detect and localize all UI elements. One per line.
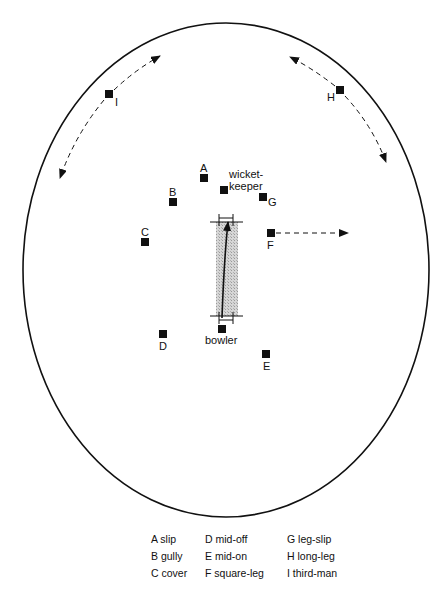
fielder-c-marker	[141, 238, 149, 246]
pitch	[210, 214, 243, 324]
fielder-d-label: D	[159, 340, 167, 352]
fielder-i-marker	[105, 90, 113, 98]
fielder-c-label: C	[141, 226, 149, 238]
legend-item: H long-leg	[287, 550, 367, 563]
wicketkeeper-label-line1: wicket-	[228, 168, 264, 180]
fielder-i-label: I	[115, 96, 118, 108]
fielder-b-marker	[169, 198, 177, 206]
wicketkeeper-label-line2: keeper	[229, 180, 263, 192]
legend-item: D mid-off	[205, 533, 287, 546]
fielder-b-label: B	[169, 186, 176, 198]
legend-item: E mid-on	[205, 550, 287, 563]
legend-item: G leg-slip	[287, 533, 367, 546]
fielder-h-arrow-down	[345, 96, 386, 162]
legend-item: B gully	[151, 550, 205, 563]
wicketkeeper-marker	[220, 186, 228, 194]
legend-item: A slip	[151, 533, 205, 546]
fielder-a-marker	[200, 174, 208, 182]
fielder-h-arrow-up	[290, 57, 335, 86]
fielder-g-label: G	[268, 196, 277, 208]
fielder-e-marker	[262, 350, 270, 358]
fielder-f-label: F	[267, 239, 274, 251]
fielder-f-marker	[267, 229, 275, 237]
legend-item: I third-man	[287, 567, 367, 580]
fielder-a-label: A	[200, 162, 208, 174]
bowler-marker	[218, 325, 226, 333]
cricket-field-diagram: A B C D E F G H I wicket- keeper bowler	[0, 0, 441, 593]
legend-item: C cover	[151, 567, 205, 580]
legend-item: F square-leg	[205, 567, 287, 580]
fielder-g-marker	[259, 193, 267, 201]
fielder-i-arrow-up	[114, 56, 160, 90]
fielder-h-label: H	[327, 91, 335, 103]
legend: A slip D mid-off G leg-slip B gully E mi…	[151, 533, 367, 580]
fielder-h-marker	[336, 86, 344, 94]
fielder-i-arrow-down	[60, 100, 104, 178]
fielder-d-marker	[159, 330, 167, 338]
fielder-e-label: E	[263, 360, 270, 372]
bowler-label: bowler	[205, 334, 238, 346]
